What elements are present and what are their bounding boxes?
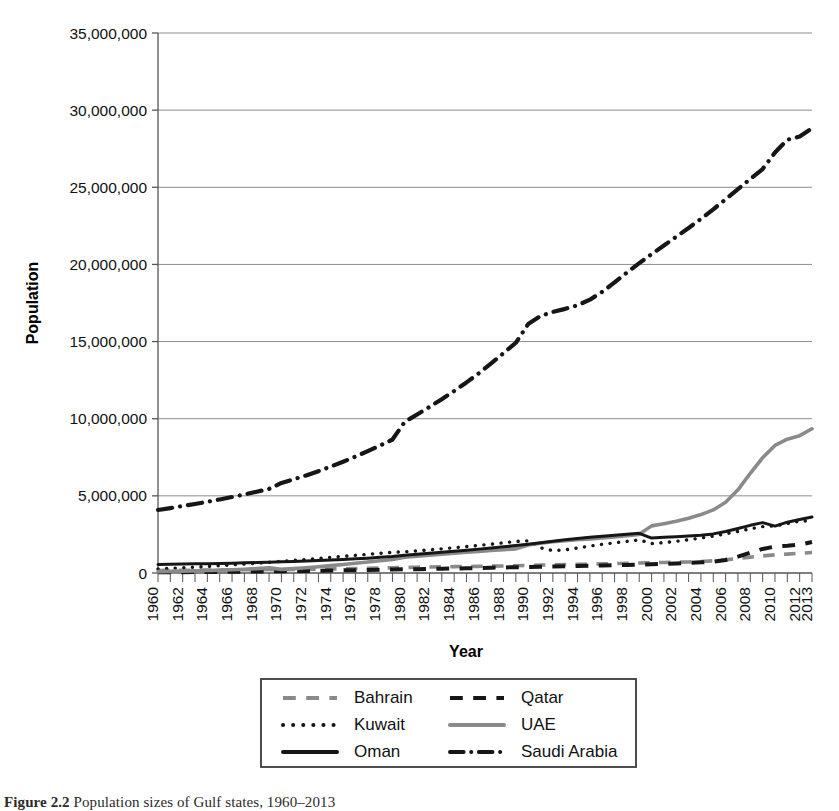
x-tick-label: 2000 [638,587,655,622]
x-tick-label: 1994 [564,587,581,622]
legend-label-oman: Oman [354,742,400,761]
x-tick-label: 1974 [317,587,334,622]
x-tick-label: 2013 [798,587,815,621]
x-tick-label: 1972 [292,587,309,621]
x-tick-label: 1998 [613,587,630,621]
x-tick-label: 1980 [391,587,408,622]
x-tick-label: 1986 [465,587,482,621]
x-tick-label: 2004 [687,587,704,622]
legend-label-saudi-arabia: Saudi Arabia [521,742,618,761]
x-tick-label: 1968 [243,587,260,621]
y-tick-label: 10,000,000 [69,410,147,427]
x-tick-label: 1962 [169,587,186,621]
x-axis-ticks: 1960196219641966196819701972197419761978… [144,573,815,621]
x-tick-label: 1992 [539,587,556,621]
x-tick-label: 1996 [588,587,605,621]
x-tick-label: 1964 [193,587,210,622]
y-axis-title: Population [24,262,41,345]
x-tick-label: 2006 [712,587,729,621]
x-tick-label: 2010 [761,587,778,622]
figure-caption: Figure 2.2 Population sizes of Gulf stat… [4,794,335,811]
caption-prefix: Figure 2.2 [4,794,70,810]
x-tick-label: 1982 [415,587,432,621]
x-tick-label: 2002 [662,587,679,621]
x-tick-label: 1970 [267,587,284,622]
x-tick-label: 1990 [514,587,531,622]
y-tick-label: 0 [138,565,147,582]
x-tick-label: 1976 [341,587,358,621]
y-axis-ticks: 05,000,00010,000,00015,000,00020,000,000… [69,25,158,582]
y-tick-label: 20,000,000 [69,256,147,273]
legend-label-bahrain: Bahrain [354,688,413,707]
y-tick-label: 25,000,000 [69,179,147,196]
legend-label-kuwait: Kuwait [354,715,405,734]
x-tick-label: 1978 [366,587,383,621]
x-tick-label: 1960 [144,587,161,622]
chart-legend: BahrainQatarKuwaitUAEOmanSaudi Arabia [261,679,636,767]
legend-label-uae: UAE [521,715,556,734]
x-tick-label: 1966 [218,587,235,621]
x-tick-label: 2008 [736,587,753,621]
legend-label-qatar: Qatar [521,688,564,707]
caption-body: Population sizes of Gulf states, 1960–20… [74,794,336,810]
y-tick-label: 30,000,000 [69,102,147,119]
y-tick-label: 5,000,000 [78,487,147,504]
x-tick-label: 1984 [440,587,457,622]
y-tick-label: 15,000,000 [69,333,147,350]
x-axis-title: Year [449,643,483,660]
x-tick-label: 1988 [490,587,507,621]
y-tick-label: 35,000,000 [69,25,147,42]
